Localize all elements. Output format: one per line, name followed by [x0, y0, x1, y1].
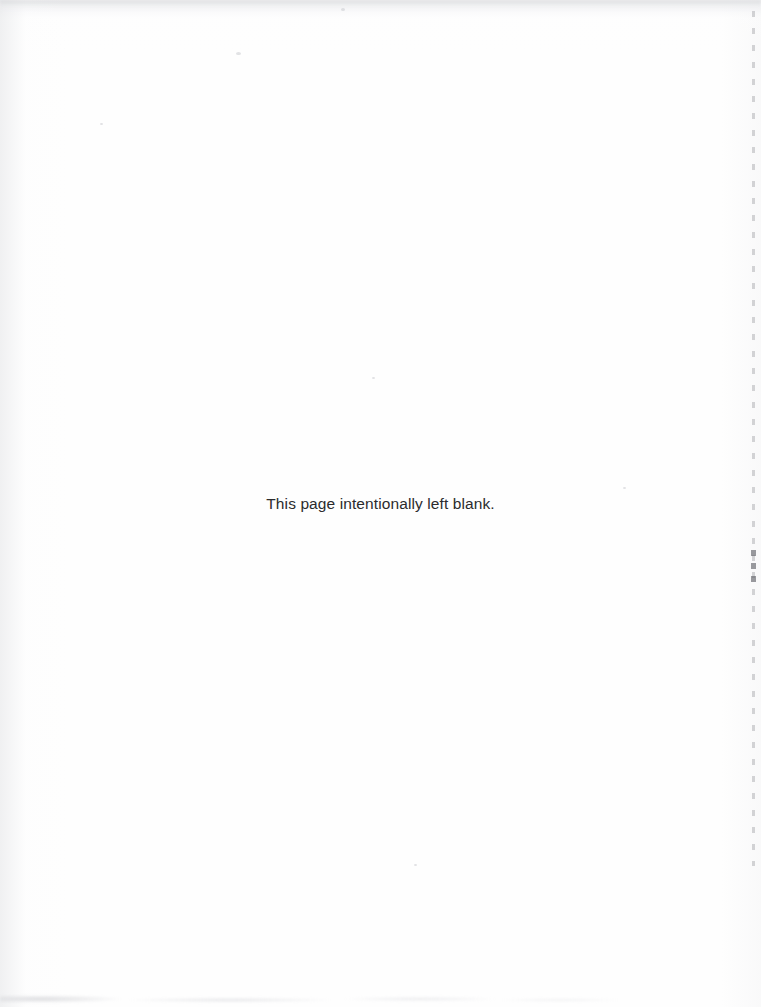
scan-artifact-speck — [100, 123, 103, 125]
scan-artifact-right-edge-line-dense — [751, 548, 756, 584]
scan-artifact-right-edge-line — [752, 8, 755, 866]
scan-artifact-speck — [341, 8, 345, 11]
scan-artifact-speck — [372, 377, 375, 379]
scan-artifact-speck — [623, 487, 626, 489]
scan-artifact-speck — [414, 864, 417, 866]
page-intentionally-blank-notice: This page intentionally left blank. — [0, 495, 761, 513]
scan-artifact-speck — [236, 52, 241, 55]
scan-artifact-bottom-band — [0, 992, 640, 1007]
scanned-blank-page: This page intentionally left blank. — [0, 0, 761, 1007]
scan-artifact-top-band — [0, 0, 761, 13]
